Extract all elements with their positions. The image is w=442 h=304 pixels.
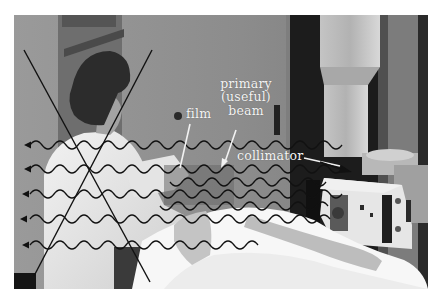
arrow-left-icon [24,166,31,173]
scatter-wave-5 [30,241,258,249]
primary-beam-label-line-2: (useful) [218,91,274,103]
arrow-right-icon [339,165,352,173]
arrow-left-icon [22,242,29,249]
collimator-label: collimator [237,150,303,162]
scatter-arrowheads [20,142,31,249]
film-label: film [186,108,211,120]
arrow-left-icon [24,142,31,149]
annotation-overlay [0,0,442,304]
arrow-left-icon [22,191,29,198]
primary-beam-label-line-3: beam [218,105,274,117]
scatter-wave-4 [30,215,330,223]
scatter-wave-2 [30,165,342,173]
arrow-left-icon [20,216,27,223]
film-pointer-line [180,124,190,168]
